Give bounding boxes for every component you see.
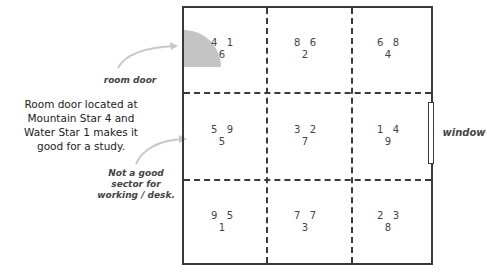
cell-top-right: 68 4	[368, 37, 408, 61]
grid-line-horizontal-2	[184, 179, 431, 181]
cell-middle-right: 14 9	[368, 124, 408, 148]
window-label: window	[441, 127, 487, 138]
star-right: 1	[227, 37, 233, 49]
star-left: 6	[377, 37, 383, 49]
star-left: 1	[377, 124, 383, 136]
star-bottom: 7	[285, 136, 325, 148]
star-bottom: 3	[285, 222, 325, 234]
star-right: 7	[310, 210, 316, 222]
star-left: 4	[211, 37, 217, 49]
room-door-arrowhead-icon	[170, 42, 178, 50]
grid-line-vertical-2	[351, 8, 353, 263]
star-left: 2	[377, 210, 383, 222]
star-right: 2	[310, 124, 316, 136]
cell-middle-center: 32 7	[285, 124, 325, 148]
star-right: 3	[393, 210, 399, 222]
study-note: Room door located at Mountain Star 4 and…	[6, 97, 156, 153]
star-bottom: 8	[368, 222, 408, 234]
star-left: 5	[211, 124, 217, 136]
grid-line-vertical-1	[266, 8, 268, 263]
room-door-arrow	[118, 46, 176, 68]
star-bottom: 2	[285, 49, 325, 61]
cell-middle-left: 59 5	[202, 124, 242, 148]
star-left: 3	[294, 124, 300, 136]
star-right: 9	[227, 124, 233, 136]
star-bottom: 5	[202, 136, 242, 148]
window-marker	[428, 102, 434, 164]
cell-top-center: 86 2	[285, 37, 325, 61]
cell-bottom-right: 23 8	[368, 210, 408, 234]
desk-note: Not a good sector for working / desk.	[96, 168, 176, 201]
star-right: 6	[310, 37, 316, 49]
star-left: 8	[294, 37, 300, 49]
star-right: 4	[393, 124, 399, 136]
room-door-label: room door	[100, 75, 160, 86]
cell-bottom-left: 95 1	[202, 210, 242, 234]
star-left: 7	[294, 210, 300, 222]
star-bottom: 1	[202, 222, 242, 234]
cell-bottom-center: 77 3	[285, 210, 325, 234]
star-right: 8	[393, 37, 399, 49]
cell-top-left: 41 6	[202, 37, 242, 61]
grid-line-horizontal-1	[184, 92, 431, 94]
star-bottom: 9	[368, 136, 408, 148]
star-right: 5	[227, 210, 233, 222]
star-left: 9	[211, 210, 217, 222]
star-bottom: 6	[202, 49, 242, 61]
star-bottom: 4	[368, 49, 408, 61]
